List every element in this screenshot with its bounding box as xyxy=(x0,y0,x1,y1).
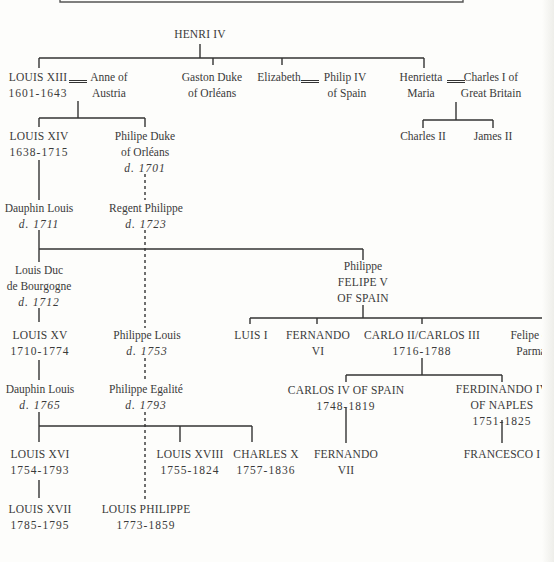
node-philipe-duke-orleans: Philipe Duke of Orléans d. 1701 xyxy=(115,128,175,176)
node-ferdinando-iv: FERDINANDO IV OF NAPLES 1751-1825 xyxy=(456,381,548,429)
node-james-ii: James II xyxy=(474,128,513,144)
node-francesco-i: FRANCESCO I xyxy=(464,446,541,462)
node-charles-ii: Charles II xyxy=(400,128,446,144)
node-anne-of-austria: Anne of Austria xyxy=(90,69,127,101)
marriage-symbol-louis13-anne xyxy=(69,80,87,83)
node-fernando-vi: FERNANDO VI xyxy=(286,327,350,359)
node-carlos-iv: CARLOS IV OF SPAIN 1748-1819 xyxy=(288,382,404,414)
node-felipe-v: Philippe FELIPE V OF SPAIN xyxy=(337,258,388,306)
node-louis-xviii: LOUIS XVIII 1755-1824 xyxy=(156,446,223,478)
node-louis-xv: LOUIS XV 1710-1774 xyxy=(11,327,70,359)
node-luis-i: LUIS I xyxy=(234,327,267,343)
node-louis-duc-bourgogne: Louis Duc de Bourgogne d. 1712 xyxy=(7,262,72,310)
node-louis-xiv: LOUIS XIV 1638-1715 xyxy=(10,128,69,160)
node-gaston: Gaston Duke of Orléans xyxy=(182,69,242,101)
node-louis-xiii: LOUIS XIII 1601-1643 xyxy=(9,69,68,101)
node-philippe-egalite: Philippe Egalité d. 1793 xyxy=(109,381,183,413)
node-philip-iv: Philip IV of Spain xyxy=(324,69,367,101)
node-dauphin-louis-1711: Dauphin Louis d. 1711 xyxy=(5,200,74,232)
node-louis-philippe: LOUIS PHILIPPE 1773-1859 xyxy=(102,501,191,533)
node-charles-x: CHARLES X 1757-1836 xyxy=(233,446,298,478)
node-carlo-iii: CARLO II/CARLOS III 1716-1788 xyxy=(364,327,480,359)
node-louis-xvi: LOUIS XVI 1754-1793 xyxy=(11,446,70,478)
node-regent-philippe: Regent Philippe d. 1723 xyxy=(109,200,183,232)
node-dauphin-louis-1765: Dauphin Louis d. 1765 xyxy=(6,381,75,413)
node-charles-i: Charles I of Great Britain xyxy=(461,69,521,101)
node-elizabeth: Elizabeth xyxy=(257,69,300,85)
node-fernando-vii: FERNANDO VII xyxy=(314,446,378,478)
marriage-symbol-elizabeth-philip4 xyxy=(301,80,319,83)
node-henri-iv: HENRI IV xyxy=(174,26,226,42)
node-philippe-louis: Philippe Louis d. 1753 xyxy=(113,327,180,359)
node-louis-xvii: LOUIS XVII 1785-1795 xyxy=(8,501,71,533)
node-henrietta-maria: Henrietta Maria xyxy=(400,69,443,101)
page-edge-shadow xyxy=(542,0,554,562)
